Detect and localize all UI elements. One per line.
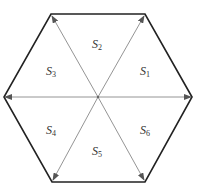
arrow-to-bottom-right-vertex xyxy=(98,97,144,180)
hexagon-diagram: S1 S2 S3 S4 S5 S6 xyxy=(0,0,201,194)
arrow-to-bottom-left-vertex xyxy=(53,97,98,180)
sector-label-s5: S5 xyxy=(92,145,102,159)
sector-label-s6: S6 xyxy=(140,124,150,138)
sector-label-s3: S3 xyxy=(46,65,56,79)
sector-label-s2: S2 xyxy=(92,38,102,52)
sector-label-s4: S4 xyxy=(46,124,56,138)
arrow-to-top-left-vertex xyxy=(52,16,98,97)
arrow-to-top-right-vertex xyxy=(98,16,144,97)
sector-label-s1: S1 xyxy=(140,65,150,79)
center-point xyxy=(97,96,99,98)
hexagon-svg xyxy=(0,0,201,194)
